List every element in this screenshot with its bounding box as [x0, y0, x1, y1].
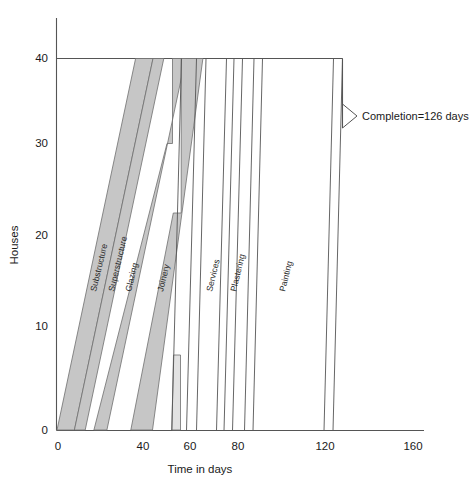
task-lines [172, 59, 343, 431]
y-tick-40: 40 [35, 52, 48, 64]
completion-arrow-icon [343, 104, 358, 128]
y-tick-labels: 40 30 20 10 0 [35, 52, 48, 436]
completion-annotation-text: Completion=126 days [362, 110, 469, 122]
y-tick-0: 0 [42, 424, 48, 436]
line-painting-lag [253, 59, 263, 431]
band-label-services: Services [204, 258, 221, 292]
line-final-lag [333, 59, 343, 431]
x-tick-80: 80 [232, 440, 245, 452]
y-tick-20: 20 [35, 229, 48, 241]
line-plastering-mid [224, 59, 234, 431]
x-tick-labels: 0 40 60 80 120 160 [55, 440, 423, 452]
line-final-lead [324, 59, 334, 431]
band-label-plastering: Plastering [228, 253, 247, 293]
band-label-painting: Painting [277, 260, 294, 293]
x-tick-40: 40 [137, 440, 150, 452]
y-tick-10: 10 [35, 320, 48, 332]
x-tick-0: 0 [55, 440, 61, 452]
line-plastering-lead [217, 59, 227, 431]
chart-root: 40 30 20 10 0 0 40 60 80 120 160 Time in… [0, 0, 471, 483]
y-axis-title: Houses [8, 225, 20, 264]
y-tick-30: 30 [35, 137, 48, 149]
line-painting-lead [245, 59, 255, 431]
x-tick-160: 160 [403, 440, 422, 452]
x-axis-title: Time in days [168, 463, 233, 475]
line-plastering-lag [233, 59, 243, 431]
completion-marker [343, 104, 358, 128]
line-of-balance-chart: 40 30 20 10 0 0 40 60 80 120 160 Time in… [0, 0, 471, 483]
activity-bands [57, 59, 203, 431]
line-services-lag2 [197, 59, 207, 431]
x-tick-120: 120 [315, 440, 334, 452]
x-tick-60: 60 [184, 440, 197, 452]
